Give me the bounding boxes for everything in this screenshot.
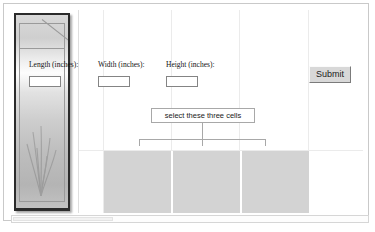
scrollbar-thumb[interactable] — [13, 217, 113, 221]
height-field-group: Height (inches): — [166, 60, 215, 87]
callout-connector-drop — [139, 139, 140, 146]
tank-rim-top-icon — [19, 23, 65, 49]
photo-image — [16, 15, 68, 208]
length-field-group: Length (inches): — [29, 60, 78, 87]
height-input[interactable] — [166, 76, 198, 87]
callout-connector-stem — [202, 123, 203, 139]
dimensions-form: Length (inches): Width (inches): Height … — [29, 60, 279, 94]
horizontal-scrollbar[interactable] — [11, 215, 369, 223]
width-field-group: Width (inches): — [98, 60, 145, 87]
table-cell[interactable] — [173, 151, 242, 213]
screenshot-root: Length (inches): Width (inches): Height … — [0, 0, 375, 232]
length-input[interactable] — [29, 76, 61, 87]
table-cell[interactable] — [242, 151, 309, 213]
document-frame: Length (inches): Width (inches): Height … — [3, 3, 369, 221]
aquatic-plant-icon — [24, 110, 58, 196]
width-label: Width (inches): — [98, 60, 145, 69]
width-input[interactable] — [98, 76, 130, 87]
aquarium-photo — [10, 10, 72, 213]
callout-connector-drop — [265, 139, 266, 146]
photo-frame — [14, 13, 70, 211]
table-cell[interactable] — [104, 151, 173, 213]
submit-button[interactable]: Submit — [309, 66, 351, 83]
annotation-callout: select these three cells — [151, 108, 255, 123]
length-label: Length (inches): — [29, 60, 78, 69]
callout-connector-drop — [202, 139, 203, 146]
height-label: Height (inches): — [166, 60, 215, 69]
selected-cell-range[interactable] — [104, 151, 309, 213]
